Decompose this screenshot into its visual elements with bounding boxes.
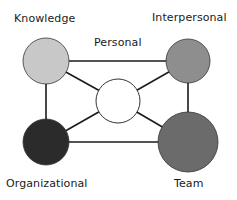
node-personal	[96, 79, 140, 123]
label-team: Team	[174, 177, 203, 190]
label-organizational: Organizational	[6, 177, 88, 190]
label-personal: Personal	[94, 36, 142, 49]
network-diagram	[0, 0, 237, 200]
label-knowledge: Knowledge	[14, 12, 75, 25]
node-organizational	[23, 119, 69, 165]
label-interpersonal: Interpersonal	[152, 11, 227, 24]
node-interpersonal	[166, 39, 210, 83]
node-team	[158, 112, 218, 172]
node-knowledge	[23, 38, 69, 84]
